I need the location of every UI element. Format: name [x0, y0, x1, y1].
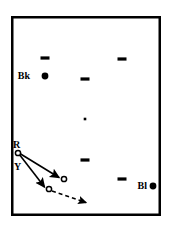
origin-node — [15, 150, 20, 155]
label-y: Y — [14, 161, 22, 172]
dash-mid-upper — [81, 77, 90, 80]
dash-mid-lower — [81, 158, 90, 161]
dash-lower-right — [118, 177, 127, 180]
bl-dot — [150, 183, 157, 190]
solid-arrow-2-end — [46, 186, 51, 191]
label-bl: Bl — [138, 180, 148, 191]
dash-upper-right — [118, 57, 127, 60]
label-r: R — [13, 139, 21, 150]
label-bk: Bk — [18, 70, 31, 81]
solid-arrow-1-end — [61, 176, 66, 181]
figure-canvas: Bk R Y Bl — [0, 0, 174, 232]
dash-upper-left — [41, 56, 50, 59]
bk-dot — [42, 73, 49, 80]
trajectory-diagram: Bk R Y Bl — [0, 0, 174, 232]
center-dot — [84, 118, 87, 121]
